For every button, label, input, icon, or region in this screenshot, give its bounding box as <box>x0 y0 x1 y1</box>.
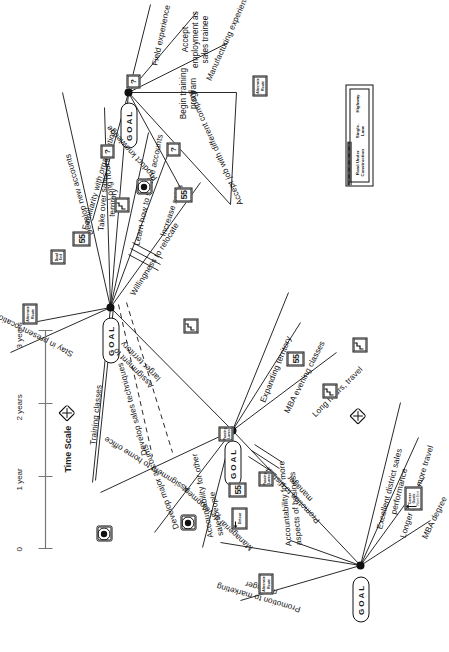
dead-end-sign: Dead End <box>50 249 65 264</box>
alternate-route-line1: Alternate <box>25 306 29 322</box>
path-label-accept-employment-sales-trainee: Accept employment as sales trainee <box>180 6 210 72</box>
railroad-crossing-sign <box>136 178 152 194</box>
question-sign: ? <box>126 74 140 88</box>
railroad-crossing-sign <box>96 525 112 541</box>
passing-lanes-line1: Passing <box>262 472 266 485</box>
winding-road-sign <box>322 383 337 398</box>
speed-limit-sign: 55 <box>286 351 304 366</box>
winding-road-icon <box>323 386 334 397</box>
winding-road-icon <box>184 321 195 332</box>
legend: Road Under Construction Single- Lane <box>345 84 373 186</box>
time-scale-tick: 0 <box>14 547 23 551</box>
career-goals-sign: Career Goals Next Exit <box>404 486 422 510</box>
passing-lanes-line2: Lanes <box>266 474 270 484</box>
alternate-route-line2: Route <box>260 80 264 90</box>
crossroad-sign <box>349 408 365 424</box>
speed-limit-sign: 55 <box>228 482 246 497</box>
legend-item-highway: Highway <box>354 94 359 112</box>
legend-item-single-lane: Single- Lane <box>354 123 364 138</box>
time-scale-title: Time Scale <box>62 425 72 472</box>
winding-road-sign <box>183 318 198 333</box>
legend-label-line1: Road Under <box>354 150 359 175</box>
time-scale-tick: 1 year <box>14 468 23 490</box>
time-scale-tick: 2 years <box>14 394 23 420</box>
winding-road-icon <box>353 340 364 351</box>
alternate-route-sign: Alternate Route <box>252 75 267 96</box>
alternate-route-sign: Alternate Route <box>22 303 37 324</box>
legend-label-line1: Single- <box>354 123 359 138</box>
passing-lanes-line2: Lanes <box>226 429 230 439</box>
dead-end-line2: End <box>58 253 62 259</box>
legend-label-line2: Construction <box>359 149 364 176</box>
railroad-crossing-sign <box>180 514 196 530</box>
railroad-crossing-icon <box>181 516 194 529</box>
alternate-route-line2: Route <box>30 308 34 318</box>
winding-road-sign <box>352 337 367 352</box>
speed-limit-value: 55 <box>178 190 188 199</box>
question-mark: ? <box>105 149 109 154</box>
speed-limit-value: 55 <box>232 485 242 494</box>
passing-lanes-sign: Passing Lanes <box>218 426 233 441</box>
railroad-crossing-icon <box>137 180 150 193</box>
dead-end-line1: Dead <box>54 252 58 260</box>
crossroad-icon <box>349 408 365 424</box>
question-sign: ? <box>100 144 114 158</box>
winding-road-icon <box>115 200 126 211</box>
time-scale-tick: 3 years <box>14 322 23 348</box>
alternate-route-line1: Alternate <box>255 78 259 94</box>
goal-marker-1: GOAL <box>352 576 369 622</box>
speed-limit-sign: 55 <box>174 187 192 202</box>
legend-item-road-under-construction: Road Under Construction <box>354 149 364 176</box>
alternate-route-line1: Alternate <box>261 576 265 592</box>
question-mark: ? <box>131 79 135 84</box>
left-arrow-icon <box>232 520 238 528</box>
goal-marker-2: GOAL <box>224 440 241 486</box>
speed-limit-value: 55 <box>290 354 300 363</box>
passing-lanes-line1: Passing <box>222 427 226 440</box>
question-mark: ? <box>171 147 175 152</box>
legend-label-line1: Highway <box>354 94 359 112</box>
speed-limit-value: 55 <box>76 234 86 243</box>
winding-road-sign <box>114 197 129 212</box>
speed-limit-sign: 55 <box>72 231 90 246</box>
question-sign: ? <box>166 142 180 156</box>
detour-sign: Detour <box>231 507 247 529</box>
time-scale-axis <box>30 324 60 554</box>
alternate-route-line2: Route <box>266 578 270 588</box>
alternate-route-sign: Alternate Route <box>258 573 273 594</box>
time-scale: Time Scale 0 1 year 2 years 3 years <box>10 324 72 554</box>
double-line-icon <box>346 141 352 185</box>
legend-label-line2: Lane <box>359 125 364 135</box>
up-arrow-icon <box>405 503 417 509</box>
railroad-crossing-icon <box>97 527 110 540</box>
passing-lanes-sign: Passing Lanes <box>258 471 273 486</box>
